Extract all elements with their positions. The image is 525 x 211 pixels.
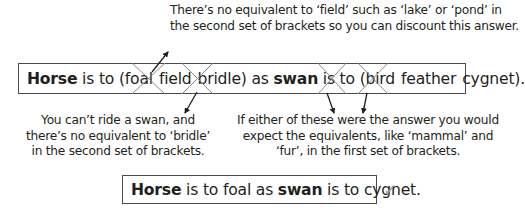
option-bridle: bridle [198,70,241,88]
annotation-line: You can’t ride a swan, and [20,113,216,129]
annotation-line: There’s no equivalent to ‘field’ such as… [170,3,480,19]
annotation-line: ‘fur’, in the first set of brackets. [232,144,504,160]
question-word-swan: swan [274,70,319,88]
annotation-field: There’s no equivalent to ‘field’ such as… [170,3,480,34]
question-box: Horse is to (foalfieldbridle) as swan is… [18,63,466,94]
option-feather: feather [401,70,456,88]
answer-word-swan: swan [278,181,323,199]
arrow-down-icon [185,92,197,113]
option-bird: bird [366,70,395,88]
arrow-down-icon [327,93,334,113]
annotation-bird-feather: If either of these were the answer you w… [232,113,504,160]
annotation-line: in the second set of brackets. [20,144,216,160]
question-text: is to ( [318,70,365,88]
answer-box: Horse is to foal as swan is to cygnet. [122,175,377,204]
question-word-horse: Horse [27,70,77,88]
annotation-line: there’s no equivalent to ‘bridle’ [20,129,216,145]
answer-word-horse: Horse [131,181,181,199]
annotation-line: expect the equivalents, like ‘mammal’ an… [232,129,504,145]
option-field: field [159,70,192,88]
annotation-line: If either of these were the answer you w… [232,113,504,129]
answer-text: is to cygnet. [322,181,420,199]
annotation-bridle: You can’t ride a swan, and there’s no eq… [20,113,216,160]
question-text: ) as [241,70,274,88]
question-text: is to (foal [77,70,153,88]
question-text: ). [514,70,525,88]
annotation-line: the second set of brackets so you can di… [170,19,480,35]
arrow-down-icon [363,93,367,113]
answer-text: is to foal as [181,181,278,199]
checkmark-icon: ✓ [383,180,397,200]
option-cygnet: cygnet [462,70,514,88]
